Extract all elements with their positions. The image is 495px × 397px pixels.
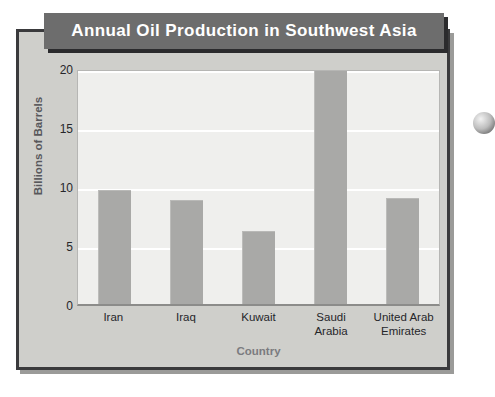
x-axis-title: Country bbox=[77, 345, 440, 357]
x-tick-label: United ArabEmirates bbox=[368, 310, 440, 338]
bar bbox=[98, 190, 131, 304]
page-bullet-marker-icon bbox=[473, 112, 495, 134]
y-axis-title: Billions of Barrels bbox=[32, 76, 44, 216]
bar bbox=[170, 200, 203, 304]
bar-series bbox=[78, 71, 439, 304]
x-tick-label: Kuwait bbox=[222, 310, 294, 338]
x-tick-label: Iraq bbox=[150, 310, 222, 338]
bar bbox=[314, 70, 347, 304]
bar bbox=[242, 231, 275, 304]
bar bbox=[386, 198, 419, 304]
y-tick-label: 0 bbox=[33, 299, 73, 313]
plot-area bbox=[77, 70, 440, 306]
x-axis-ticks: IranIraqKuwaitSaudiArabiaUnited ArabEmir… bbox=[77, 310, 440, 338]
y-tick-label: 20 bbox=[33, 63, 73, 77]
title-banner: Annual Oil Production in Southwest Asia bbox=[44, 13, 444, 49]
y-tick-label: 5 bbox=[33, 240, 73, 254]
x-tick-label: Iran bbox=[77, 310, 149, 338]
x-tick-label: SaudiArabia bbox=[295, 310, 367, 338]
chart-title: Annual Oil Production in Southwest Asia bbox=[71, 21, 417, 41]
